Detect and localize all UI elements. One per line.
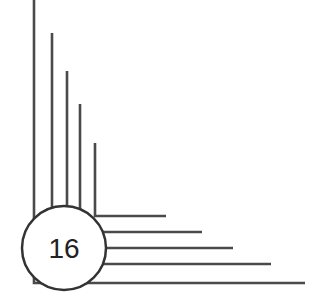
corner-line [95, 143, 166, 216]
page-number-label: 16 [48, 233, 79, 264]
page-number-ornament: 16 [0, 0, 319, 304]
corner-line [80, 104, 202, 232]
